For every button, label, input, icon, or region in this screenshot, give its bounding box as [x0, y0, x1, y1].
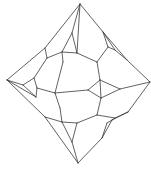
crystal-edge	[55, 90, 88, 93]
crystal-edge	[112, 112, 128, 120]
crystal-edge	[45, 4, 80, 48]
crystal-edge	[78, 138, 102, 163]
crystal-edge	[60, 108, 62, 122]
crystal-edge	[100, 80, 101, 98]
crystal-edge	[127, 60, 150, 82]
crystal-edge	[97, 98, 101, 115]
crystal-edge	[103, 32, 127, 60]
crystal-edge	[101, 89, 120, 98]
crystal-edge	[37, 88, 55, 93]
crystal-edge	[23, 85, 36, 97]
crystal-edge	[62, 52, 77, 53]
crystal-edge	[97, 62, 100, 80]
crystal-edge	[23, 78, 34, 85]
crystal-edge	[7, 48, 45, 80]
crystal-edge	[62, 52, 63, 62]
crystal-edge	[88, 90, 101, 98]
crystal-edge	[97, 115, 115, 118]
crystal-edge	[103, 32, 108, 47]
crystal-edge	[34, 58, 47, 78]
crystal-edge	[72, 142, 78, 163]
crystal-edge	[88, 80, 100, 90]
crystal-edge	[80, 4, 103, 32]
crystal-edge	[36, 88, 37, 97]
crystal-edge	[72, 123, 77, 142]
crystal-edge	[62, 122, 77, 123]
crystal-edge	[97, 47, 108, 62]
crystal-edge	[62, 33, 72, 52]
crystal-diagram	[0, 0, 151, 170]
crystal-edge	[45, 117, 62, 122]
crystal-edge	[55, 93, 60, 108]
crystal-edge	[77, 53, 97, 62]
crystal-edge	[47, 52, 62, 58]
crystal-edge	[7, 80, 45, 117]
crystal-edge	[45, 117, 78, 163]
crystal-edge	[100, 80, 120, 89]
crystal-edge	[55, 62, 63, 93]
crystal-edge	[34, 78, 37, 88]
crystal-edge	[45, 48, 47, 58]
crystal-edge	[72, 33, 77, 53]
crystal-edge	[62, 122, 72, 142]
crystal-edge	[77, 115, 97, 123]
crystal-edge	[77, 4, 80, 53]
